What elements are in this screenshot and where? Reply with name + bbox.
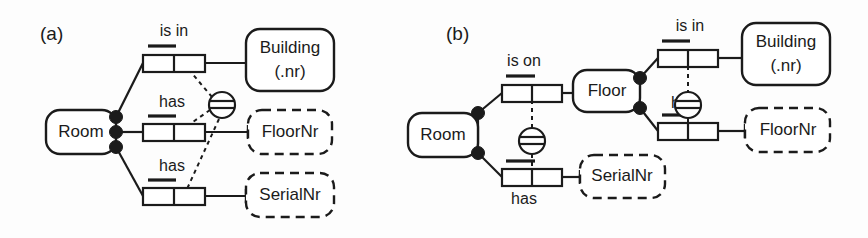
- value-type-serialnr-a[interactable]: SerialNr: [246, 173, 334, 217]
- value-type-serialnr-b[interactable]: SerialNr: [580, 155, 665, 198]
- external-uniqueness-constraint-a[interactable]: [209, 92, 235, 118]
- predicate-has-serialnr-b[interactable]: has: [502, 161, 562, 207]
- external-uniqueness-constraint-b-floor[interactable]: [675, 92, 701, 118]
- external-uniqueness-circle-b-floor: [675, 92, 701, 118]
- role-dot-room-a-3: [110, 141, 123, 154]
- external-uniqueness-constraint-b-room[interactable]: [519, 128, 545, 154]
- entity-building-b[interactable]: Building (.nr): [742, 23, 830, 85]
- role-dot-floor-b-1: [634, 72, 647, 85]
- value-type-floornr-b[interactable]: FloorNr: [745, 108, 830, 152]
- entity-building-b-label-line2: (.nr): [770, 56, 801, 75]
- role-dot-room-a-2: [110, 126, 123, 139]
- external-uniqueness-circle-b-room: [519, 128, 545, 154]
- predicate-is-on-b-label: is on: [507, 52, 541, 69]
- entity-building-b-label-line1: Building: [756, 32, 817, 51]
- value-type-serialnr-b-label: SerialNr: [591, 166, 653, 185]
- predicate-has-floornr-a-label: has: [159, 93, 185, 110]
- value-type-serialnr-a-label: SerialNr: [259, 185, 321, 204]
- connector-room-isin: [116, 63, 143, 117]
- role-dot-floor-b-2: [634, 102, 647, 115]
- entity-room-b-label: Room: [420, 125, 465, 144]
- predicate-is-in-b-label: is in: [676, 17, 704, 34]
- connector-room-hasserialnr: [116, 147, 143, 196]
- external-uniqueness-circle-a: [209, 92, 235, 118]
- predicate-is-in-a-label: is in: [160, 22, 188, 39]
- entity-building-a[interactable]: Building (.nr): [246, 29, 334, 91]
- entity-floor-b-label: Floor: [588, 81, 627, 100]
- predicate-has-serialnr-b-label: has: [511, 190, 537, 207]
- value-type-floornr-a[interactable]: FloorNr: [248, 110, 332, 154]
- predicate-is-in-a[interactable]: is in: [143, 22, 205, 72]
- role-dot-room-b-2: [472, 147, 485, 160]
- predicate-has-serialnr-a[interactable]: has: [143, 157, 205, 205]
- entity-room-a[interactable]: Room: [46, 110, 116, 154]
- entity-building-a-label-line2: (.nr): [274, 62, 305, 81]
- entity-room-a-label: Room: [58, 122, 103, 141]
- role-dot-room-a-1: [110, 111, 123, 124]
- panel-b: (b): [408, 17, 830, 207]
- entity-building-a-label-line1: Building: [260, 38, 321, 57]
- predicate-is-on-b[interactable]: is on: [502, 52, 562, 102]
- diagram-canvas: (a) Room: [0, 0, 868, 238]
- panel-a-label: (a): [40, 23, 63, 44]
- predicate-has-serialnr-a-label: has: [159, 157, 185, 174]
- role-dot-room-b-1: [472, 107, 485, 120]
- predicate-is-in-b[interactable]: is in: [658, 17, 718, 67]
- panel-a: (a) Room: [40, 22, 334, 217]
- constraint-leg-isin: [190, 71, 212, 97]
- value-type-floornr-a-label: FloorNr: [262, 122, 319, 141]
- panel-b-label: (b): [446, 23, 469, 44]
- value-type-floornr-b-label: FloorNr: [760, 120, 817, 139]
- predicate-has-floornr-a[interactable]: has: [143, 93, 205, 141]
- entity-floor-b[interactable]: Floor: [573, 70, 640, 112]
- orm-diagram-figure: (a) Room: [0, 0, 868, 238]
- entity-room-b[interactable]: Room: [408, 113, 478, 157]
